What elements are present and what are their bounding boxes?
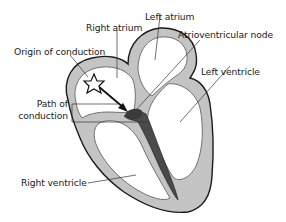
label-right-ventricle: Right ventricle xyxy=(21,177,87,188)
label-left-atrium: Left atrium xyxy=(145,11,194,22)
label-right-atrium: Right atrium xyxy=(86,22,142,33)
label-origin-of-conduction: Origin of conduction xyxy=(14,46,105,57)
label-path-of-conduction-1: Path of xyxy=(36,98,68,109)
label-av-node: Atrioventricular node xyxy=(178,29,273,40)
label-left-ventricle: Left ventricle xyxy=(201,66,260,77)
label-path-of-conduction-2: conduction xyxy=(18,110,68,121)
